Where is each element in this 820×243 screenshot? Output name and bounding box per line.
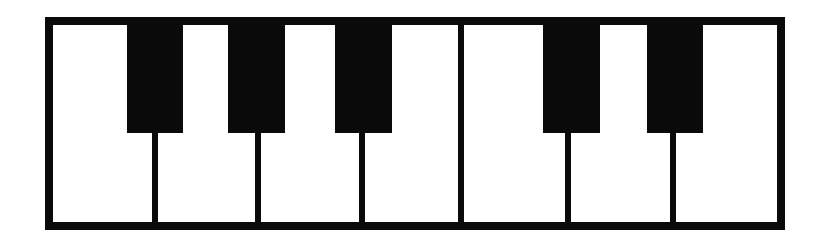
- keys-area: [53, 25, 777, 222]
- white-key-divider-c-d: [152, 133, 158, 222]
- black-key-a-sharp[interactable]: [647, 25, 703, 133]
- black-key-f-sharp[interactable]: [335, 25, 392, 133]
- black-key-d-sharp[interactable]: [228, 25, 285, 133]
- white-key-divider-g-a: [565, 133, 571, 222]
- black-key-c-sharp[interactable]: [127, 25, 183, 133]
- keyboard-frame: [45, 17, 785, 230]
- white-key-divider-e-f: [359, 133, 365, 222]
- white-key-divider-a-b: [670, 133, 676, 222]
- white-key-divider-f-g: [458, 25, 464, 222]
- piano-keyboard-figure: Line drawing of one octave of a piano ke…: [0, 0, 820, 243]
- black-key-g-sharp[interactable]: [543, 25, 600, 133]
- white-key-c[interactable]: [53, 25, 135, 222]
- white-key-divider-d-e: [255, 133, 261, 222]
